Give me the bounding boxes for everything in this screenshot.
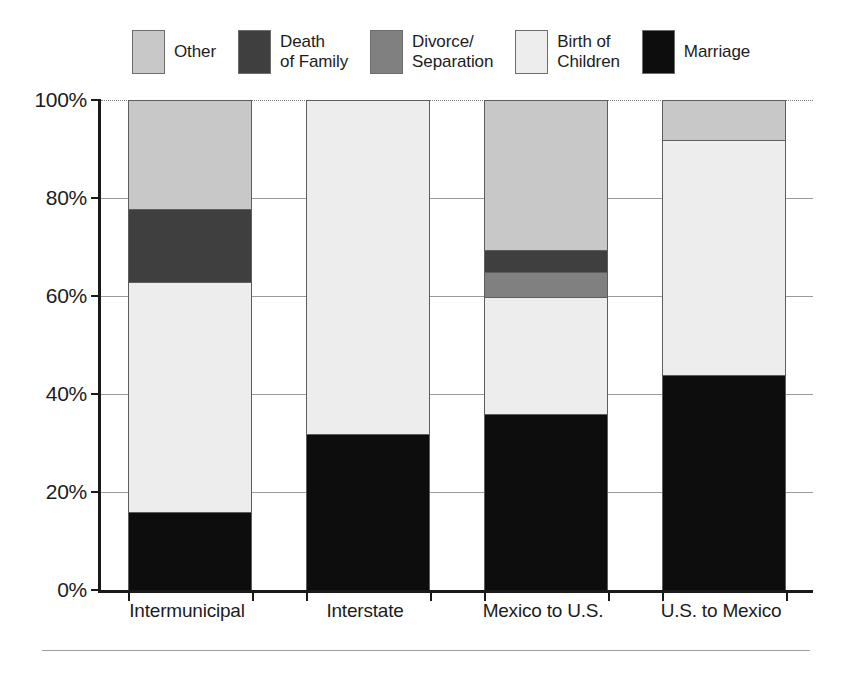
x-axis-category-label: Intermunicipal bbox=[102, 600, 272, 622]
bar-segment[interactable] bbox=[129, 101, 251, 209]
legend-swatch-icon bbox=[515, 30, 548, 74]
bar-segment[interactable] bbox=[663, 375, 785, 590]
stacked-bar[interactable] bbox=[662, 100, 786, 590]
legend-item[interactable]: Marriage bbox=[642, 30, 750, 74]
legend-swatch-icon bbox=[642, 30, 675, 74]
y-axis-tick-label: 60% bbox=[0, 284, 87, 308]
legend-item-label: Death of Family bbox=[280, 32, 348, 72]
stacked-bar[interactable] bbox=[306, 100, 430, 590]
bar-segment[interactable] bbox=[485, 272, 607, 296]
bar-group bbox=[306, 100, 430, 590]
y-axis-tick-mark bbox=[91, 589, 101, 591]
legend-item[interactable]: Birth of Children bbox=[515, 30, 620, 74]
bar-segment[interactable] bbox=[307, 434, 429, 590]
stacked-bar-chart-figure: OtherDeath of FamilyDivorce/ SeparationB… bbox=[0, 0, 849, 674]
bar-group bbox=[484, 100, 608, 590]
legend-item[interactable]: Death of Family bbox=[238, 30, 348, 74]
legend-swatch-icon bbox=[238, 30, 271, 74]
stacked-bar[interactable] bbox=[484, 100, 608, 590]
y-axis-tick-label: 0% bbox=[0, 578, 87, 602]
legend-item[interactable]: Divorce/ Separation bbox=[370, 30, 493, 74]
y-axis-tick-mark bbox=[91, 393, 101, 395]
bar-groups bbox=[101, 100, 813, 590]
y-axis-tick-label: 20% bbox=[0, 480, 87, 504]
bar-group bbox=[662, 100, 786, 590]
legend-item-label: Birth of Children bbox=[557, 32, 620, 72]
y-axis-tick-mark bbox=[91, 197, 101, 199]
stacked-bar[interactable] bbox=[128, 100, 252, 590]
legend-item-label: Divorce/ Separation bbox=[412, 32, 493, 72]
footer-divider bbox=[42, 650, 810, 651]
y-axis-tick-label: 100% bbox=[0, 88, 87, 112]
legend-item-label: Marriage bbox=[684, 42, 750, 62]
bar-segment[interactable] bbox=[663, 140, 785, 375]
y-axis-tick-mark bbox=[91, 491, 101, 493]
x-axis-category-label: Interstate bbox=[280, 600, 450, 622]
x-axis-labels: IntermunicipalInterstateMexico to U.S.U.… bbox=[98, 600, 810, 632]
chart-legend: OtherDeath of FamilyDivorce/ SeparationB… bbox=[132, 30, 822, 88]
bar-segment[interactable] bbox=[485, 250, 607, 272]
bar-segment[interactable] bbox=[307, 101, 429, 434]
x-axis-category-label: Mexico to U.S. bbox=[458, 600, 628, 622]
legend-swatch-icon bbox=[370, 30, 403, 74]
plot-area: 0%20%40%60%80%100% bbox=[98, 100, 813, 593]
bar-segment[interactable] bbox=[485, 297, 607, 414]
y-axis-tick-label: 40% bbox=[0, 382, 87, 406]
bar-segment[interactable] bbox=[663, 101, 785, 140]
bar-group bbox=[128, 100, 252, 590]
legend-item-label: Other bbox=[174, 42, 216, 62]
legend-swatch-icon bbox=[132, 30, 165, 74]
bar-segment[interactable] bbox=[129, 209, 251, 282]
y-axis-tick-label: 80% bbox=[0, 186, 87, 210]
bar-segment[interactable] bbox=[129, 512, 251, 590]
bar-segment[interactable] bbox=[485, 414, 607, 590]
bar-segment[interactable] bbox=[485, 101, 607, 250]
y-axis-tick-mark bbox=[91, 99, 101, 101]
x-axis-category-label: U.S. to Mexico bbox=[636, 600, 806, 622]
y-axis-tick-mark bbox=[91, 295, 101, 297]
bar-segment[interactable] bbox=[129, 282, 251, 512]
legend-item[interactable]: Other bbox=[132, 30, 216, 74]
